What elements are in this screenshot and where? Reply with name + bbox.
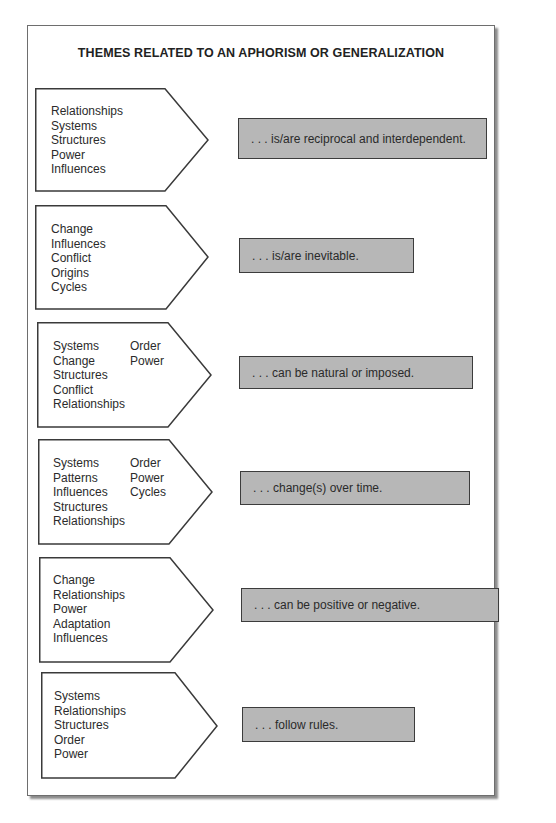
theme-term: Order <box>130 456 166 471</box>
themes-pentagon: Systems Patterns Influences Structures R… <box>38 439 214 545</box>
theme-term: Conflict <box>51 251 106 266</box>
theme-term: Order <box>130 339 164 354</box>
theme-term: Change <box>53 573 125 588</box>
theme-term: Adaptation <box>53 617 125 632</box>
themes-list: Change Relationships Power Adaptation In… <box>53 573 125 646</box>
theme-term: Cycles <box>51 280 106 295</box>
themes-list: Change Influences Conflict Origins Cycle… <box>51 222 106 295</box>
themes-list-secondary: Order Power Cycles <box>130 456 166 500</box>
themes-list-secondary: Order Power <box>130 339 164 368</box>
theme-term: Structures <box>53 500 125 515</box>
generalization-box: . . . is/are reciprocal and interdepende… <box>238 118 487 159</box>
theme-term: Systems <box>54 689 126 704</box>
generalization-box: . . . change(s) over time. <box>240 471 470 505</box>
themes-list: Relationships Systems Structures Power I… <box>51 104 123 177</box>
theme-term: Power <box>130 354 164 369</box>
theme-term: Origins <box>51 266 106 281</box>
theme-term: Cycles <box>130 485 166 500</box>
diagram-title: THEMES RELATED TO AN APHORISM OR GENERAL… <box>27 46 495 60</box>
theme-term: Power <box>130 471 166 486</box>
theme-term: Power <box>53 602 125 617</box>
theme-term: Patterns <box>53 471 125 486</box>
themes-pentagon: Relationships Systems Structures Power I… <box>35 88 210 192</box>
theme-term: Structures <box>51 133 123 148</box>
theme-term: Power <box>54 747 126 762</box>
theme-term: Change <box>51 222 106 237</box>
theme-term: Influences <box>53 631 125 646</box>
theme-term: Relationships <box>51 104 123 119</box>
themes-list: Systems Change Structures Conflict Relat… <box>53 339 125 412</box>
generalization-box: . . . can be natural or imposed. <box>239 356 473 389</box>
theme-term: Systems <box>51 119 123 134</box>
theme-term: Influences <box>51 162 123 177</box>
themes-list: Systems Patterns Influences Structures R… <box>53 456 125 529</box>
theme-term: Structures <box>54 718 126 733</box>
theme-term: Structures <box>53 368 125 383</box>
theme-term: Order <box>54 733 126 748</box>
theme-term: Change <box>53 354 125 369</box>
theme-term: Relationships <box>53 514 125 529</box>
generalization-box: . . . follow rules. <box>242 707 415 742</box>
themes-pentagon: Systems Change Structures Conflict Relat… <box>37 322 213 428</box>
themes-list: Systems Relationships Structures Order P… <box>54 689 126 762</box>
theme-term: Systems <box>53 456 125 471</box>
theme-term: Relationships <box>54 704 126 719</box>
theme-term: Influences <box>53 485 125 500</box>
themes-pentagon: Change Relationships Power Adaptation In… <box>39 557 215 663</box>
themes-pentagon: Systems Relationships Structures Order P… <box>41 672 219 779</box>
theme-term: Relationships <box>53 397 125 412</box>
theme-term: Power <box>51 148 123 163</box>
theme-term: Systems <box>53 339 125 354</box>
theme-term: Conflict <box>53 383 125 398</box>
theme-term: Influences <box>51 237 106 252</box>
themes-pentagon: Change Influences Conflict Origins Cycle… <box>35 205 210 310</box>
generalization-box: . . . can be positive or negative. <box>241 588 499 622</box>
theme-term: Relationships <box>53 588 125 603</box>
generalization-box: . . . is/are inevitable. <box>239 238 414 273</box>
